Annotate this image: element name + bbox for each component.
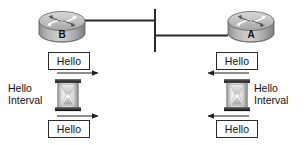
- hello-box-left-top: Hello: [48, 52, 90, 70]
- hourglass-icon-right: [224, 79, 250, 111]
- hello-interval-label-left: Hello Interval: [8, 83, 52, 106]
- hello-box-right-top: Hello: [216, 52, 258, 70]
- hello-box-right-bottom: Hello: [216, 120, 258, 138]
- hourglass-icon-left: [55, 79, 81, 111]
- hello-box-left-bottom: Hello: [48, 120, 90, 138]
- diagram-canvas: B A Hello Hello Hello Hello Hello Interv…: [0, 0, 307, 145]
- router-a-label: A: [244, 29, 258, 40]
- hello-interval-label-right: Hello Interval: [254, 83, 302, 106]
- diagram-vector-layer: [0, 0, 307, 145]
- router-b-label: B: [55, 29, 69, 40]
- network-segment: [84, 9, 228, 52]
